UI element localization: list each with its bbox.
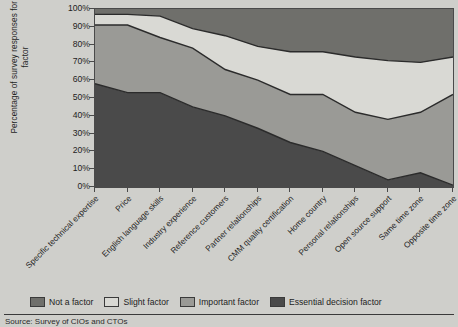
x-tick-label: Reference customers: [125, 194, 230, 299]
footer-divider: [4, 314, 454, 315]
y-tick-mark: [89, 97, 94, 98]
y-tick-mark: [89, 26, 94, 27]
y-tick-label: 90%: [73, 21, 90, 31]
x-tick-mark: [94, 187, 95, 192]
y-tick-label: 80%: [73, 39, 90, 49]
x-tick-mark: [159, 187, 160, 192]
x-tick-mark: [354, 187, 355, 192]
legend-label: Important factor: [199, 297, 259, 307]
legend-swatch: [270, 297, 285, 307]
legend-swatch: [30, 297, 45, 307]
y-tick-mark: [89, 79, 94, 80]
x-tick-label: Home country: [223, 194, 328, 299]
legend-swatch: [180, 297, 195, 307]
legend-swatch: [104, 297, 119, 307]
x-tick-mark: [419, 187, 420, 192]
legend-label: Not a factor: [49, 297, 93, 307]
y-tick-label: 50%: [73, 92, 90, 102]
y-tick-mark: [89, 168, 94, 169]
x-tick-label: Industry experience: [93, 194, 198, 299]
x-tick-mark: [452, 187, 453, 192]
y-tick-mark: [89, 61, 94, 62]
y-axis-title: Percentage of survey responses for each …: [10, 0, 44, 142]
chart-legend: Not a factorSlight factorImportant facto…: [30, 294, 442, 310]
y-tick-label: 40%: [73, 110, 90, 120]
y-tick-mark: [89, 115, 94, 116]
x-tick-mark: [387, 187, 388, 192]
legend-item[interactable]: Not a factor: [30, 297, 93, 307]
legend-item[interactable]: Essential decision factor: [270, 297, 382, 307]
legend-label: Slight factor: [123, 297, 168, 307]
stacked-area-svg: [95, 9, 453, 187]
source-note: Source: Survey of CIOs and CTOs: [5, 317, 128, 327]
y-tick-label: 30%: [73, 128, 90, 138]
x-tick-mark: [224, 187, 225, 192]
y-tick-label: 60%: [73, 74, 90, 84]
x-tick-label: Open source support: [288, 194, 393, 299]
x-tick-label: Opposite time zone: [353, 194, 458, 299]
y-axis-tick-labels: 0%10%20%30%40%50%60%70%80%90%100%: [54, 0, 90, 196]
x-tick-mark: [127, 187, 128, 192]
y-tick-mark: [89, 44, 94, 45]
x-tick-mark: [192, 187, 193, 192]
x-tick-label: Same time zone: [320, 194, 425, 299]
legend-item[interactable]: Slight factor: [104, 297, 168, 307]
x-tick-mark: [257, 187, 258, 192]
legend-label: Essential decision factor: [289, 297, 382, 307]
y-tick-mark: [89, 133, 94, 134]
x-tick-label: Personal relationships: [255, 194, 360, 299]
x-tick-label: Partner relationships: [158, 194, 263, 299]
x-tick-label: CMM quality certification: [190, 194, 295, 299]
x-tick-label: English language skills: [60, 194, 165, 299]
legend-item[interactable]: Important factor: [180, 297, 259, 307]
y-tick-label: 10%: [73, 163, 90, 173]
x-tick-mark: [289, 187, 290, 192]
x-tick-label: Price: [28, 194, 133, 299]
y-tick-label: 20%: [73, 145, 90, 155]
y-tick-label: 70%: [73, 56, 90, 66]
y-tick-mark: [89, 8, 94, 9]
x-tick-label: Specific technical expertise: [0, 194, 100, 299]
chart-figure: Percentage of survey responses for each …: [0, 0, 458, 327]
y-tick-label: 100%: [68, 3, 90, 13]
y-tick-mark: [89, 150, 94, 151]
x-tick-mark: [322, 187, 323, 192]
plot-area: [94, 8, 454, 188]
